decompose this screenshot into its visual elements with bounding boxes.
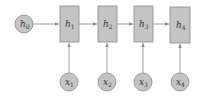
input-x3: x3	[134, 73, 152, 91]
rnn-diagram: h0 h1 h2 h3 h4 x1 x2 x3 x4	[0, 0, 204, 99]
initial-state-node: h0	[15, 15, 33, 33]
hidden-state-h1: h1	[60, 6, 79, 42]
input-x4: x4	[171, 73, 189, 91]
input-x1: x1	[60, 73, 78, 91]
hidden-state-h2: h2	[98, 6, 117, 42]
hidden-state-h4: h4	[170, 7, 190, 43]
hidden-state-h3: h3	[134, 6, 153, 42]
input-x2: x2	[98, 73, 116, 91]
